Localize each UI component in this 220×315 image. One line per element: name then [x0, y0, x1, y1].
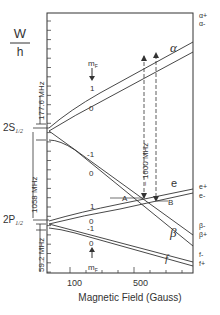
y-label-top: W	[14, 26, 27, 41]
mf-label-bottom: mF	[88, 263, 98, 273]
point-label-b: B	[168, 198, 173, 207]
mf-alpha-lower: 0	[89, 104, 94, 113]
right-label-e-plus: e+	[199, 183, 207, 190]
y-label-bottom: h	[17, 45, 24, 59]
right-label-alpha-plus: α+	[199, 12, 207, 19]
right-label-f-plus: f+	[199, 260, 205, 267]
curve-label-beta: β	[169, 225, 177, 240]
right-label-e-minus: e-	[199, 192, 206, 199]
curve-label-f: f	[165, 252, 170, 264]
level-2p: 2P1/2	[3, 214, 23, 226]
right-label-beta-minus: β-	[199, 222, 206, 230]
mf-label-top: mF	[88, 59, 98, 69]
span-transition: ~ 1600 MHz	[141, 143, 150, 186]
mf-alpha-upper: 1	[90, 84, 95, 93]
span-p-split: 59.2 MHz	[37, 238, 46, 272]
point-label-a: A	[122, 194, 128, 203]
mf-beta-upper: -1	[87, 150, 95, 159]
span-s-split: 177.6 MHz	[37, 81, 46, 120]
curve-label-alpha: α	[170, 40, 178, 55]
curve-label-e: e	[171, 177, 177, 189]
x-tick-label-100: 100	[67, 278, 82, 288]
y-ticks	[47, 21, 51, 272]
alpha-minus-curve	[49, 52, 193, 131]
zeeman-diagram: W h 2S1/2 2P1/2 177.6 MHz 1058 MHz 59.2 …	[0, 0, 220, 315]
alpha-curves	[49, 42, 193, 131]
mf-f-upper: -1	[87, 224, 95, 233]
x-ticks	[70, 267, 182, 273]
mf-beta-lower: 0	[89, 169, 94, 178]
level-2s: 2S1/2	[3, 122, 23, 134]
span-lamb: 1058 MHz	[30, 177, 39, 213]
right-label-f-minus: f-	[199, 251, 204, 258]
mf-arrow-down-icon	[89, 76, 95, 81]
x-axis-label: Magnetic Field (Gauss)	[78, 292, 181, 303]
mf-e-upper: 1	[90, 202, 95, 211]
x-tick-label-500: 500	[133, 278, 148, 288]
right-label-beta-plus: β+	[199, 231, 207, 239]
right-label-alpha-minus: α-	[199, 20, 206, 27]
mf-f-lower: 0	[89, 239, 94, 248]
